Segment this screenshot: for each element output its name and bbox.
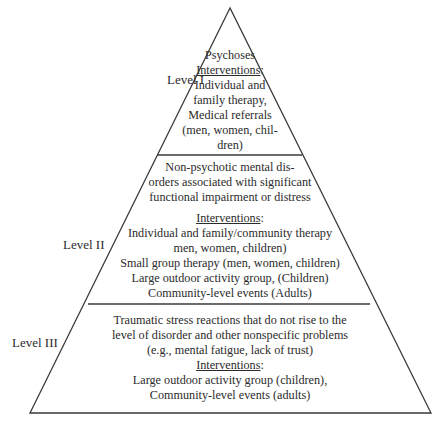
level-3-intervention-line: Large outdoor activity group (children), <box>100 373 360 388</box>
level-2-intervention-line: Large outdoor activity group, (Children) <box>110 271 350 286</box>
heading-colon: : <box>260 63 263 77</box>
level-3-intervention-line: Community-level events (adults) <box>100 388 360 403</box>
level-2-content: Non-psychotic mental dis- orders associa… <box>110 160 350 301</box>
level-2-condition-line: Non-psychotic mental dis- <box>110 160 350 175</box>
level-1-intervention-line: Medical referrals <box>175 108 285 123</box>
level-3-condition-line: level of disorder and other nonspecific … <box>100 328 360 343</box>
level-1-intervention-line: (men, women, chil- <box>175 123 285 138</box>
level-2-condition-line: functional impairment or distress <box>110 190 350 205</box>
interventions-heading-text: Interventions <box>196 211 260 225</box>
level-2-condition-line: orders associated with significant <box>110 175 350 190</box>
level-3-label: Level III <box>12 335 58 351</box>
level-2-intervention-line: men, women, children) <box>110 241 350 256</box>
level-1-intervention-line: family therapy, <box>175 93 285 108</box>
level-2-intervention-line: Community-level events (Adults) <box>110 286 350 301</box>
heading-colon: : <box>260 211 263 225</box>
level-2-interventions-heading: Interventions: <box>110 211 350 226</box>
interventions-heading-text: Interventions <box>196 358 260 372</box>
level-3-condition-line: Traumatic stress reactions that do not r… <box>100 313 360 328</box>
level-2-label: Level II <box>63 237 105 253</box>
level-1-intervention-line: dren) <box>175 138 285 153</box>
level-3-interventions-heading: Interventions: <box>100 358 360 373</box>
level-2-intervention-line: Individual and family/community therapy <box>110 226 350 241</box>
level-3-condition-line: (e.g., mental fatigue, lack of trust) <box>100 343 360 358</box>
level-2-intervention-line: Small group therapy (men, women, childre… <box>110 256 350 271</box>
heading-colon: : <box>260 358 263 372</box>
level-1-interventions-heading: Interventions: <box>175 63 285 78</box>
interventions-heading-text: Interventions <box>196 63 260 77</box>
level-1-content: Psychoses Interventions: Individual and … <box>175 48 285 153</box>
level-1-condition: Psychoses <box>175 48 285 63</box>
level-3-content: Traumatic stress reactions that do not r… <box>100 313 360 403</box>
level-1-intervention-line: Individual and <box>175 78 285 93</box>
